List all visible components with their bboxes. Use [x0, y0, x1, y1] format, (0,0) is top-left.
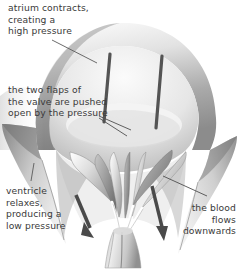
heart-valve-diagram: atrium contracts, creating a high pressu…: [0, 0, 239, 270]
label-atrium-contracts: atrium contracts, creating a high pressu…: [8, 2, 89, 37]
label-ventricle-relaxes: ventricle relaxes, producing a low press…: [6, 185, 66, 231]
label-blood-flows-downwards: the blood flows downwards: [183, 202, 236, 237]
label-valve-flaps: the two flaps of the valve are pushed op…: [8, 84, 108, 119]
